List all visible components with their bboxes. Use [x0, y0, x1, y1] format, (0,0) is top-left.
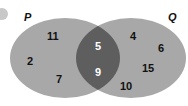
q-only-value: 10	[120, 80, 132, 92]
q-only-value: 4	[130, 30, 137, 42]
intersection-value: 5	[95, 40, 101, 52]
set-q-label: Q	[168, 11, 177, 23]
p-only-value: 2	[27, 55, 33, 67]
venn-diagram: P Q 11 2 7 5 9 4 6 15 10	[0, 0, 188, 106]
set-p-label: P	[24, 11, 32, 23]
p-only-value: 7	[56, 73, 62, 85]
intersection-value: 9	[95, 66, 101, 78]
corner-marker	[0, 8, 8, 20]
q-only-value: 6	[158, 42, 164, 54]
p-only-value: 11	[47, 30, 59, 42]
q-only-value: 15	[142, 62, 154, 74]
